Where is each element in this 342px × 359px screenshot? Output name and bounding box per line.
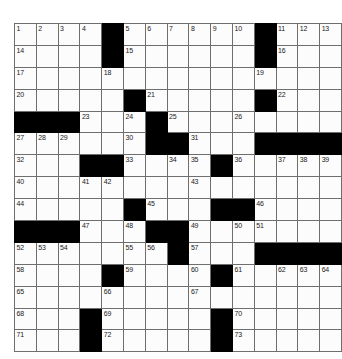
crossword-cell[interactable]: 71 <box>15 330 37 352</box>
crossword-cell[interactable] <box>189 330 211 352</box>
crossword-cell[interactable]: 25 <box>167 111 189 133</box>
crossword-cell[interactable] <box>298 221 320 243</box>
crossword-cell[interactable]: 61 <box>232 264 254 286</box>
crossword-cell[interactable]: 73 <box>232 330 254 352</box>
crossword-cell[interactable]: 65 <box>15 286 37 308</box>
crossword-cell[interactable] <box>58 199 80 221</box>
crossword-cell[interactable] <box>254 330 276 352</box>
crossword-cell[interactable] <box>102 89 124 111</box>
crossword-cell[interactable]: 24 <box>123 111 145 133</box>
crossword-cell[interactable] <box>232 133 254 155</box>
crossword-cell[interactable] <box>189 308 211 330</box>
crossword-cell[interactable]: 15 <box>123 45 145 67</box>
crossword-cell[interactable]: 32 <box>15 155 37 177</box>
crossword-cell[interactable]: 20 <box>15 89 37 111</box>
crossword-cell[interactable] <box>189 199 211 221</box>
crossword-cell[interactable] <box>167 45 189 67</box>
crossword-cell[interactable] <box>80 45 102 67</box>
crossword-cell[interactable]: 7 <box>167 24 189 46</box>
crossword-cell[interactable]: 35 <box>189 155 211 177</box>
crossword-cell[interactable] <box>254 111 276 133</box>
crossword-cell[interactable] <box>320 330 342 352</box>
crossword-cell[interactable] <box>58 89 80 111</box>
crossword-cell[interactable]: 45 <box>145 199 167 221</box>
crossword-cell[interactable]: 39 <box>320 155 342 177</box>
crossword-cell[interactable] <box>298 199 320 221</box>
crossword-cell[interactable] <box>167 177 189 199</box>
crossword-cell[interactable]: 68 <box>15 308 37 330</box>
crossword-cell[interactable]: 33 <box>123 155 145 177</box>
crossword-cell[interactable]: 43 <box>189 177 211 199</box>
crossword-cell[interactable] <box>320 67 342 89</box>
crossword-cell[interactable] <box>254 264 276 286</box>
crossword-cell[interactable] <box>211 177 233 199</box>
crossword-cell[interactable] <box>211 133 233 155</box>
crossword-cell[interactable] <box>123 177 145 199</box>
crossword-cell[interactable] <box>80 133 102 155</box>
crossword-cell[interactable]: 58 <box>15 264 37 286</box>
crossword-cell[interactable]: 11 <box>276 24 298 46</box>
crossword-cell[interactable]: 42 <box>102 177 124 199</box>
crossword-cell[interactable]: 72 <box>102 330 124 352</box>
crossword-grid[interactable]: 1234567891011121314151617181920212223242… <box>14 23 342 352</box>
crossword-cell[interactable]: 44 <box>15 199 37 221</box>
crossword-cell[interactable] <box>211 89 233 111</box>
crossword-cell[interactable] <box>320 177 342 199</box>
crossword-cell[interactable]: 31 <box>189 133 211 155</box>
crossword-cell[interactable] <box>211 45 233 67</box>
crossword-cell[interactable] <box>102 199 124 221</box>
crossword-cell[interactable]: 54 <box>58 242 80 264</box>
crossword-cell[interactable] <box>80 242 102 264</box>
crossword-cell[interactable]: 17 <box>15 67 37 89</box>
crossword-cell[interactable] <box>36 264 58 286</box>
crossword-cell[interactable] <box>80 67 102 89</box>
crossword-cell[interactable] <box>36 89 58 111</box>
crossword-cell[interactable] <box>123 67 145 89</box>
crossword-cell[interactable] <box>167 286 189 308</box>
crossword-cell[interactable]: 59 <box>123 264 145 286</box>
crossword-cell[interactable] <box>276 199 298 221</box>
crossword-cell[interactable] <box>123 330 145 352</box>
crossword-cell[interactable] <box>189 89 211 111</box>
crossword-cell[interactable] <box>320 89 342 111</box>
crossword-cell[interactable]: 14 <box>15 45 37 67</box>
crossword-cell[interactable]: 22 <box>276 89 298 111</box>
crossword-cell[interactable] <box>80 89 102 111</box>
crossword-cell[interactable] <box>58 67 80 89</box>
crossword-cell[interactable] <box>232 67 254 89</box>
crossword-cell[interactable]: 64 <box>320 264 342 286</box>
crossword-cell[interactable] <box>58 264 80 286</box>
crossword-cell[interactable] <box>232 286 254 308</box>
crossword-cell[interactable] <box>167 330 189 352</box>
crossword-cell[interactable] <box>167 199 189 221</box>
crossword-cell[interactable]: 4 <box>80 24 102 46</box>
crossword-cell[interactable] <box>167 308 189 330</box>
crossword-cell[interactable] <box>254 177 276 199</box>
crossword-cell[interactable] <box>211 111 233 133</box>
crossword-cell[interactable] <box>102 111 124 133</box>
crossword-cell[interactable]: 9 <box>211 24 233 46</box>
crossword-cell[interactable] <box>145 330 167 352</box>
crossword-cell[interactable] <box>298 308 320 330</box>
crossword-cell[interactable]: 13 <box>320 24 342 46</box>
crossword-cell[interactable]: 19 <box>254 67 276 89</box>
crossword-cell[interactable] <box>320 286 342 308</box>
crossword-cell[interactable]: 29 <box>58 133 80 155</box>
crossword-cell[interactable] <box>298 330 320 352</box>
crossword-cell[interactable]: 52 <box>15 242 37 264</box>
crossword-cell[interactable] <box>189 45 211 67</box>
crossword-cell[interactable]: 27 <box>15 133 37 155</box>
crossword-cell[interactable] <box>102 242 124 264</box>
crossword-cell[interactable]: 66 <box>102 286 124 308</box>
crossword-cell[interactable] <box>102 221 124 243</box>
crossword-cell[interactable] <box>167 264 189 286</box>
crossword-cell[interactable] <box>276 308 298 330</box>
crossword-cell[interactable] <box>36 330 58 352</box>
crossword-cell[interactable]: 47 <box>80 221 102 243</box>
crossword-cell[interactable] <box>276 177 298 199</box>
crossword-cell[interactable] <box>167 89 189 111</box>
crossword-cell[interactable]: 70 <box>232 308 254 330</box>
crossword-cell[interactable] <box>145 155 167 177</box>
crossword-cell[interactable]: 51 <box>254 221 276 243</box>
crossword-cell[interactable]: 50 <box>232 221 254 243</box>
